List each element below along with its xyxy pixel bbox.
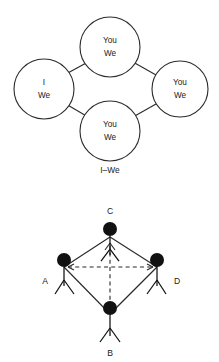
edge-c-d — [110, 237, 157, 267]
node-top-label-line2: We — [104, 49, 117, 58]
figure-b-label: B — [107, 348, 113, 358]
node-left-label-line1: I — [43, 78, 45, 87]
node-left-circle — [14, 59, 74, 119]
node-right[interactable]: You We — [152, 61, 208, 117]
figure-a-head — [57, 253, 71, 267]
figure-b-head — [103, 301, 117, 315]
figure-a-leg-right — [64, 280, 74, 294]
i-we-caption: I–We — [100, 165, 120, 175]
i-we-network-diagram: I We You We You We You We I–We — [0, 0, 219, 181]
figure-a-leg-left — [55, 280, 64, 294]
i-we-diagram-canvas: I We You We You We You We I–We — [0, 0, 219, 181]
node-left[interactable]: I We — [14, 59, 74, 119]
node-top[interactable]: You We — [80, 17, 140, 77]
node-top-label-line1: You — [103, 36, 117, 45]
edge-bottom-right — [133, 104, 156, 117]
node-bottom-circle — [80, 101, 140, 161]
figure-b-leg-left — [100, 328, 110, 342]
node-right-label-line1: You — [173, 78, 187, 87]
node-right-label-line2: We — [174, 91, 187, 100]
node-bottom[interactable]: You We — [80, 101, 140, 161]
node-left-label-line2: We — [38, 91, 51, 100]
figure-d-head — [150, 253, 164, 267]
figure-c-leg-right — [110, 249, 119, 261]
figure-d-label: D — [174, 276, 180, 286]
node-right-circle — [152, 61, 208, 117]
abcd-diagram-canvas: C A D B — [0, 181, 219, 362]
figure-d-leg-right — [157, 280, 166, 294]
edge-top-right — [133, 62, 156, 75]
node-top-circle — [80, 17, 140, 77]
figure-b-leg-right — [110, 328, 120, 342]
stick-figure-a[interactable]: A — [42, 253, 74, 294]
figure-a-label: A — [42, 276, 48, 286]
figure-c-leg-left — [101, 249, 110, 261]
figure-d-leg-left — [147, 280, 157, 294]
stick-figure-d[interactable]: D — [147, 253, 180, 294]
node-bottom-label-line2: We — [104, 133, 117, 142]
node-bottom-label-line1: You — [103, 120, 117, 129]
abcd-stick-figure-diagram: C A D B — [0, 181, 219, 362]
figure-c-head — [103, 222, 117, 236]
stick-figure-c[interactable]: C — [101, 206, 119, 261]
edge-a-c — [64, 237, 110, 267]
figure-c-label: C — [107, 206, 113, 216]
stick-figure-b[interactable]: B — [100, 301, 120, 358]
